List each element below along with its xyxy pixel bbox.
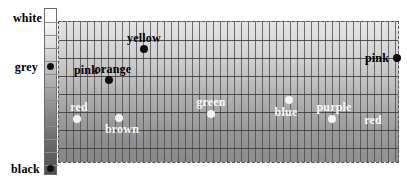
data-label-red-left: red [70, 100, 88, 115]
grayscale-color-plot: white grey black [0, 0, 407, 188]
colorbar-tick-line [45, 74, 58, 75]
colorbar-label-grey: grey [2, 60, 38, 75]
data-label-orange: orange [95, 62, 132, 77]
data-point-orange[interactable] [105, 76, 113, 84]
colorbar-tick-line [45, 126, 58, 127]
colorbar-gradient [44, 8, 57, 175]
data-label-brown: brown [105, 122, 139, 137]
plot-area: yellow pink orange pink red brown green … [58, 21, 399, 163]
colorbar-tick-line [45, 61, 58, 62]
data-point-yellow[interactable] [140, 45, 148, 53]
colorbar-tick-line [45, 35, 58, 36]
colorbar-label-black: black [0, 162, 40, 177]
data-label-yellow: yellow [127, 31, 161, 46]
colorbar-tick-line [45, 48, 58, 49]
data-point-red-left[interactable] [73, 115, 81, 123]
colorbar-label-white: white [2, 11, 42, 26]
data-label-pink-right: pink [365, 51, 389, 66]
colorbar-tick-line [45, 87, 58, 88]
data-label-blue: blue [275, 105, 298, 120]
colorbar-marker-grey [47, 63, 54, 70]
colorbar-tick-line [45, 152, 58, 153]
data-point-purple[interactable] [328, 115, 336, 123]
data-label-green: green [196, 95, 225, 110]
colorbar-tick-line [45, 100, 58, 101]
data-point-green[interactable] [207, 110, 215, 118]
grayscale-colorbar [44, 8, 57, 175]
colorbar-tick-line [45, 139, 58, 140]
colorbar-tick-line [45, 22, 58, 23]
colorbar-marker-black [47, 165, 54, 172]
data-point-blue[interactable] [285, 96, 293, 104]
data-label-red-right: red [364, 113, 382, 128]
colorbar-tick-line [45, 113, 58, 114]
data-label-purple: purple [316, 100, 351, 115]
data-point-pink-right[interactable] [393, 54, 401, 62]
